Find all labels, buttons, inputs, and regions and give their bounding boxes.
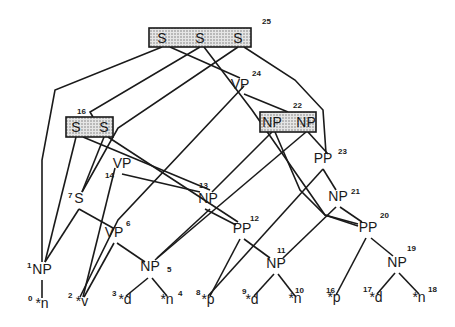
node-number: 25 <box>262 17 271 26</box>
leaf-number: 8 <box>196 288 201 297</box>
node-number: 12 <box>250 214 259 223</box>
node-label: NP <box>387 254 406 270</box>
node-number: 1 <box>27 261 32 270</box>
node-number: 11 <box>277 246 286 255</box>
node-label: PP <box>233 220 252 236</box>
parse-forest-diagram: SSS25SS16NPNP22 VP24VP14S7NP13PP23NP21PP… <box>0 0 455 327</box>
edge-line <box>208 169 323 296</box>
node-number: 7 <box>68 191 73 200</box>
node-number: 13 <box>199 181 208 190</box>
leaf-9: *d9 <box>242 287 259 307</box>
node-20: PP20 <box>359 211 390 235</box>
node-label: NP <box>140 258 159 274</box>
node-label: NP <box>266 255 285 271</box>
leaf-8: *p8 <box>196 288 215 307</box>
edge-line <box>90 47 200 117</box>
leaf-3: *d3 <box>112 289 132 307</box>
edge-line <box>157 209 210 258</box>
leaf-2: *v2 <box>68 291 88 309</box>
node-label: VP <box>231 76 250 92</box>
node-label: S <box>71 119 80 135</box>
node-label: S <box>233 30 242 46</box>
leaf-label: *p <box>201 291 214 307</box>
packed-node-22: NPNP22 <box>260 101 316 132</box>
node-14: VP14 <box>105 155 131 180</box>
node-label: PP <box>314 150 333 166</box>
leaf-16b: *p16 <box>326 286 341 305</box>
node-number: 23 <box>338 147 347 156</box>
edge-line <box>212 132 272 192</box>
node-24: VP24 <box>231 69 262 92</box>
edge-line <box>170 47 240 78</box>
leaf-number: 0 <box>28 294 33 303</box>
leaf-number: 17 <box>363 285 372 294</box>
node-number: 22 <box>293 101 302 110</box>
node-7: S7 <box>68 190 84 206</box>
node-number: 19 <box>407 244 416 253</box>
leaf-nodes: *n0*v2*d3*n4*p8*d9*n10*p16*d17*n18 <box>28 285 437 311</box>
leaf-label: *d <box>245 291 258 307</box>
node-label: NP <box>198 190 217 206</box>
leaf-18: *n18 <box>412 285 437 305</box>
leaf-number: 4 <box>178 289 183 298</box>
packed-node-25: SSS25 <box>149 17 271 47</box>
node-number: 5 <box>167 265 172 274</box>
leaf-10: *n10 <box>288 286 304 306</box>
node-12: PP12 <box>233 214 260 236</box>
node-label: S <box>195 30 204 46</box>
edge-line <box>83 137 210 190</box>
node-19: NP19 <box>387 244 416 270</box>
node-number: 21 <box>351 187 360 196</box>
node-label: NP <box>32 261 51 277</box>
leaf-number: 2 <box>68 291 73 300</box>
node-number: 16 <box>77 107 86 116</box>
leaf-label: *n <box>160 291 173 307</box>
node-label: PP <box>359 219 378 235</box>
node-number: 20 <box>380 211 389 220</box>
leaf-0: *n0 <box>28 294 49 311</box>
edge-line <box>122 174 200 192</box>
node-label: NP <box>262 114 281 130</box>
edge-line <box>283 207 336 258</box>
edge-line <box>336 238 366 295</box>
tree-nodes: VP24VP14S7NP13PP23NP21PP12PP20VP6NP1NP5N… <box>27 69 416 277</box>
leaf-number: 3 <box>112 289 117 298</box>
node-number: 14 <box>105 171 114 180</box>
node-label: NP <box>328 188 347 204</box>
leaf-number: 9 <box>242 287 247 296</box>
node-13: NP13 <box>198 181 217 206</box>
edge-line <box>84 243 114 297</box>
leaf-label: *d <box>118 291 131 307</box>
leaf-label: *v <box>76 293 88 309</box>
node-23: PP23 <box>314 147 348 166</box>
edge-line <box>323 169 336 190</box>
node-number: 24 <box>252 69 261 78</box>
node-label: S <box>99 119 108 135</box>
node-label: VP <box>105 224 124 240</box>
node-label: NP <box>296 114 315 130</box>
leaf-number: 10 <box>295 286 304 295</box>
node-label: S <box>157 30 166 46</box>
node-label: S <box>74 190 83 206</box>
leaf-label: *n <box>35 295 48 311</box>
leaf-label: *n <box>412 289 425 305</box>
edge-line <box>45 209 79 262</box>
edge-line <box>210 239 240 296</box>
node-21: NP21 <box>328 187 360 204</box>
leaf-4: *n4 <box>160 289 183 307</box>
leaf-number: 16 <box>326 286 335 295</box>
leaf-17: *d17 <box>363 285 383 305</box>
node-1: NP1 <box>27 261 52 277</box>
packed-nodes: SSS25SS16NPNP22 <box>66 17 316 137</box>
node-number: 6 <box>126 219 131 228</box>
leaf-number: 18 <box>428 285 437 294</box>
edge-line <box>155 132 306 260</box>
node-label: VP <box>113 155 132 171</box>
node-11: NP11 <box>266 246 286 271</box>
node-5: NP5 <box>140 258 172 274</box>
